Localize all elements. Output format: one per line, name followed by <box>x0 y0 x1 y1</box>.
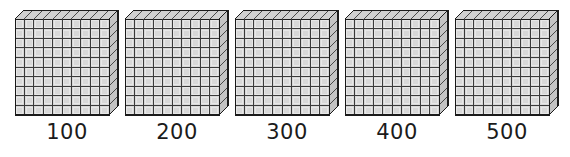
base-ten-blocks-figure: 100 200 300 400 <box>0 0 570 157</box>
block-group-2: 200 <box>120 0 234 157</box>
block-label-2: 200 <box>120 119 234 145</box>
hundred-flat-4 <box>345 10 449 116</box>
block-group-5: 500 <box>450 0 564 157</box>
hundred-flat-5 <box>455 10 559 116</box>
block-group-1: 100 <box>10 0 124 157</box>
block-group-3: 300 <box>230 0 344 157</box>
block-group-4: 400 <box>340 0 454 157</box>
hundred-flat-2 <box>125 10 229 116</box>
block-label-5: 500 <box>450 119 564 145</box>
hundred-flat-3 <box>235 10 339 116</box>
block-label-3: 300 <box>230 119 344 145</box>
block-label-4: 400 <box>340 119 454 145</box>
block-label-1: 100 <box>10 119 124 145</box>
hundred-flat-1 <box>15 10 119 116</box>
